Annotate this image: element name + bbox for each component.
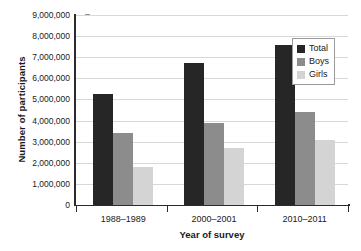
- x-axis-tick-mark: [167, 205, 168, 212]
- bar-girls: [315, 140, 335, 205]
- bar-girls: [224, 148, 244, 205]
- y-axis-tick-label: 5,000,000: [14, 94, 70, 104]
- x-axis-tick-label: 2010–2011: [282, 214, 326, 224]
- legend-item-label: Boys: [309, 57, 329, 66]
- y-axis-tick-labels: 9,000,0008,000,0007,000,0006,000,0005,00…: [14, 15, 70, 205]
- bar-total: [184, 63, 204, 205]
- y-axis-tick-label: 8,000,000: [14, 31, 70, 41]
- legend-item: Girls: [297, 68, 329, 81]
- bar-girls: [133, 167, 153, 205]
- x-axis-tick-mark: [348, 205, 349, 212]
- bar-boys: [295, 112, 315, 205]
- legend-item-label: Girls: [309, 70, 328, 79]
- bar-group: [184, 15, 244, 205]
- y-axis-tick-label: 6,000,000: [14, 73, 70, 83]
- bar-boys: [204, 123, 224, 205]
- legend-item: Boys: [297, 55, 329, 68]
- legend-swatch-icon: [297, 71, 305, 79]
- legend-item: Total: [297, 42, 329, 55]
- legend-item-label: Total: [309, 44, 328, 53]
- y-axis-tick-label: 4,000,000: [14, 116, 70, 126]
- chart-legend: TotalBoysGirls: [292, 38, 335, 85]
- bar-boys: [113, 133, 133, 205]
- bar-chart: Number of participants 9,000,0008,000,00…: [0, 0, 361, 251]
- x-axis-tick-label: 1988–1989: [101, 214, 146, 224]
- bar-group: [93, 15, 153, 205]
- x-axis-tick-mark: [76, 205, 77, 212]
- y-axis-tick-label: 2,000,000: [14, 158, 70, 168]
- x-axis-tick-mark: [257, 205, 258, 212]
- bar-total: [93, 94, 113, 205]
- legend-swatch-icon: [297, 45, 305, 53]
- x-axis-title: Year of survey: [76, 229, 348, 240]
- y-axis-tick-label: 1,000,000: [14, 179, 70, 189]
- y-axis-tick-label: 0: [14, 200, 70, 210]
- y-axis-tick-label: 3,000,000: [14, 137, 70, 147]
- legend-swatch-icon: [297, 58, 305, 66]
- x-axis-tick-label: 2000–2001: [191, 214, 236, 224]
- y-axis-tick-label: 7,000,000: [14, 52, 70, 62]
- y-axis-tick-label: 9,000,000: [14, 10, 70, 20]
